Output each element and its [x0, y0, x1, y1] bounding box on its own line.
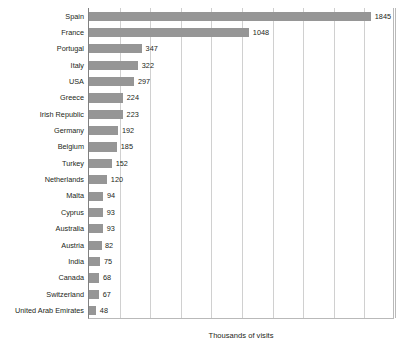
- category-label: Netherlands: [0, 176, 84, 183]
- category-label: Germany: [0, 127, 84, 134]
- bar: [89, 142, 117, 151]
- category-label: USA: [0, 78, 84, 85]
- bar-value-label: 224: [127, 94, 139, 101]
- bar-value-label: 48: [100, 307, 108, 314]
- category-label: Irish Republic: [0, 111, 84, 118]
- bar-container: 48: [89, 302, 108, 318]
- bar-row: Malta94: [0, 188, 401, 204]
- category-label: Cyprus: [0, 209, 84, 216]
- category-label: Canada: [0, 274, 84, 281]
- bar-value-label: 322: [142, 62, 154, 69]
- bar: [89, 126, 118, 135]
- bar: [89, 175, 107, 184]
- bar-value-label: 75: [104, 258, 112, 265]
- bar: [89, 77, 134, 86]
- bar-row: Austria82: [0, 237, 401, 253]
- bar-container: 347: [89, 41, 158, 57]
- category-label: Switzerland: [0, 291, 84, 298]
- bar-container: 93: [89, 204, 115, 220]
- category-label: France: [0, 29, 84, 36]
- bar-value-label: 185: [121, 143, 133, 150]
- category-label: Spain: [0, 13, 84, 20]
- bar-value-label: 93: [107, 209, 115, 216]
- bar: [89, 241, 102, 250]
- bar-value-label: 223: [127, 111, 139, 118]
- category-label: Malta: [0, 192, 84, 199]
- bar-container: 75: [89, 253, 112, 269]
- bar-row: Germany192: [0, 123, 401, 139]
- bar-value-label: 192: [122, 127, 134, 134]
- bar-value-label: 82: [105, 242, 113, 249]
- bar-value-label: 347: [146, 45, 158, 52]
- category-label: Turkey: [0, 160, 84, 167]
- bar: [89, 192, 103, 201]
- bar: [89, 93, 123, 102]
- bar-row: Portugal347: [0, 41, 401, 57]
- bar-container: 94: [89, 188, 115, 204]
- bar-row: France1048: [0, 24, 401, 40]
- bar-container: 67: [89, 286, 111, 302]
- bar-row: Netherlands120: [0, 172, 401, 188]
- category-label: United Arab Emirates: [0, 307, 84, 314]
- bar-row: Turkey152: [0, 155, 401, 171]
- bar-value-label: 152: [116, 160, 128, 167]
- category-label: Austria: [0, 242, 84, 249]
- bar: [89, 159, 112, 168]
- bar-value-label: 1048: [253, 29, 269, 36]
- bar: [89, 44, 142, 53]
- bar-container: 93: [89, 221, 115, 237]
- category-label: Greece: [0, 94, 84, 101]
- bar-value-label: 93: [107, 225, 115, 232]
- bar-container: 185: [89, 139, 133, 155]
- bar-row: Switzerland67: [0, 286, 401, 302]
- bar-row: United Arab Emirates48: [0, 302, 401, 318]
- bar-value-label: 297: [138, 78, 150, 85]
- bar: [89, 110, 123, 119]
- bar-container: 297: [89, 73, 150, 89]
- bar-container: 152: [89, 155, 128, 171]
- bar: [89, 257, 100, 266]
- bar: [89, 208, 103, 217]
- bar-container: 322: [89, 57, 154, 73]
- bar-container: 68: [89, 270, 111, 286]
- category-label: India: [0, 258, 84, 265]
- bar-chart: Spain1845France1048Portugal347Italy322US…: [0, 0, 401, 350]
- bar: [89, 61, 138, 70]
- bar-container: 224: [89, 90, 139, 106]
- bar: [89, 273, 99, 282]
- bar-value-label: 68: [103, 274, 111, 281]
- bar-row: Italy322: [0, 57, 401, 73]
- bar-container: 192: [89, 123, 134, 139]
- category-label: Belgium: [0, 143, 84, 150]
- bar-row: Cyprus93: [0, 204, 401, 220]
- bar-row: USA297: [0, 73, 401, 89]
- bar-container: 1048: [89, 24, 269, 40]
- bar: [89, 306, 96, 315]
- bar: [89, 224, 103, 233]
- bar-rows: Spain1845France1048Portugal347Italy322US…: [0, 8, 401, 319]
- bar-container: 120: [89, 172, 123, 188]
- x-axis-title: Thousands of visits: [88, 331, 394, 340]
- bar: [89, 12, 371, 21]
- bar: [89, 28, 249, 37]
- bar-row: Belgium185: [0, 139, 401, 155]
- bar-row: Irish Republic223: [0, 106, 401, 122]
- bar-row: Australia93: [0, 221, 401, 237]
- bar-value-label: 120: [111, 176, 123, 183]
- bar-container: 223: [89, 106, 139, 122]
- bar-value-label: 94: [107, 192, 115, 199]
- bar-container: 82: [89, 237, 113, 253]
- category-label: Portugal: [0, 45, 84, 52]
- bar-container: 1845: [89, 8, 391, 24]
- category-label: Australia: [0, 225, 84, 232]
- category-label: Italy: [0, 62, 84, 69]
- bar: [89, 290, 99, 299]
- bar-row: India75: [0, 253, 401, 269]
- bar-value-label: 1845: [375, 13, 391, 20]
- bar-row: Greece224: [0, 90, 401, 106]
- bar-value-label: 67: [103, 291, 111, 298]
- bar-row: Canada68: [0, 270, 401, 286]
- bar-row: Spain1845: [0, 8, 401, 24]
